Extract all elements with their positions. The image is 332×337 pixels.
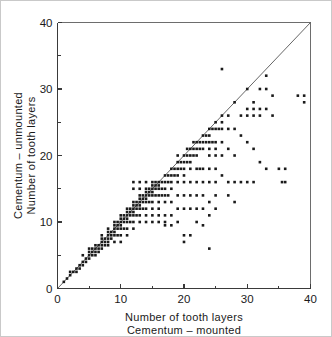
data-point [211,128,214,131]
data-point [164,194,167,197]
data-point [135,204,138,207]
data-point [132,204,135,207]
data-point [138,181,141,184]
data-point [233,101,236,104]
data-point [221,154,224,157]
data-point [233,128,236,131]
data-point [199,141,202,144]
data-point [265,88,268,91]
data-point [246,141,249,144]
data-point [148,201,151,204]
data-point [164,187,167,190]
data-point [107,244,110,247]
data-point [151,181,154,184]
data-point [164,181,167,184]
data-point [227,194,230,197]
data-point [183,174,186,177]
data-point [119,217,122,220]
data-point [221,128,224,131]
data-point [107,231,110,234]
data-point [157,214,160,217]
data-point [78,267,81,270]
data-point [157,187,160,190]
data-point [183,161,186,164]
data-point [85,257,88,260]
data-point [214,181,217,184]
data-point [126,211,129,214]
data-point [104,241,107,244]
data-point [202,181,205,184]
data-point [91,251,94,254]
data-point [123,214,126,217]
data-point [259,114,262,117]
x-tick-label: 30 [241,293,254,305]
data-point [132,211,135,214]
data-point [259,108,262,111]
data-point [189,207,192,210]
data-point [211,141,214,144]
data-point [107,234,110,237]
data-point [214,194,217,197]
y-tick-label: 10 [40,216,53,228]
data-point [157,184,160,187]
data-point [132,201,135,204]
data-point [265,168,268,171]
data-point [208,128,211,131]
data-point [208,201,211,204]
data-point [142,197,145,200]
x-axis-title-line1: Number of tooth layers [125,311,243,323]
y-tick-label: 40 [40,17,53,29]
data-point [132,187,135,190]
data-point [208,247,211,250]
data-point [259,161,262,164]
data-point [104,244,107,247]
data-point [189,234,192,237]
data-point [170,174,173,177]
data-point [148,191,151,194]
data-point [91,254,94,257]
data-point [170,214,173,217]
data-point [94,247,97,250]
data-point [151,191,154,194]
data-point [176,161,179,164]
data-point [113,234,116,237]
data-point [170,181,173,184]
data-point [66,277,69,280]
data-point [221,114,224,117]
scatter-plot-figure: 010203040010203040Number of tooth layers… [0,0,332,337]
data-point [252,148,255,151]
data-point [97,244,100,247]
data-point [214,121,217,124]
data-point [123,227,126,230]
data-point [265,74,268,77]
data-point [164,214,167,217]
data-point [107,237,110,240]
data-point [126,227,129,230]
data-point [135,214,138,217]
x-tick-label: 20 [178,293,191,305]
data-point [271,94,274,97]
data-point [202,207,205,210]
data-point [119,234,122,237]
data-point [205,141,208,144]
data-point [154,194,157,197]
data-point [303,101,306,104]
data-point [145,187,148,190]
data-point [195,141,198,144]
data-point [126,234,129,237]
data-point [167,181,170,184]
data-point [199,148,202,151]
data-point [91,247,94,250]
data-point [221,121,224,124]
data-point [246,181,249,184]
data-point [138,204,141,207]
data-point [170,168,173,171]
data-point [183,154,186,157]
data-point [246,114,249,117]
data-point [157,194,160,197]
data-point [138,221,141,224]
data-point [94,244,97,247]
data-point [116,224,119,227]
data-point [246,108,249,111]
data-point [145,207,148,210]
